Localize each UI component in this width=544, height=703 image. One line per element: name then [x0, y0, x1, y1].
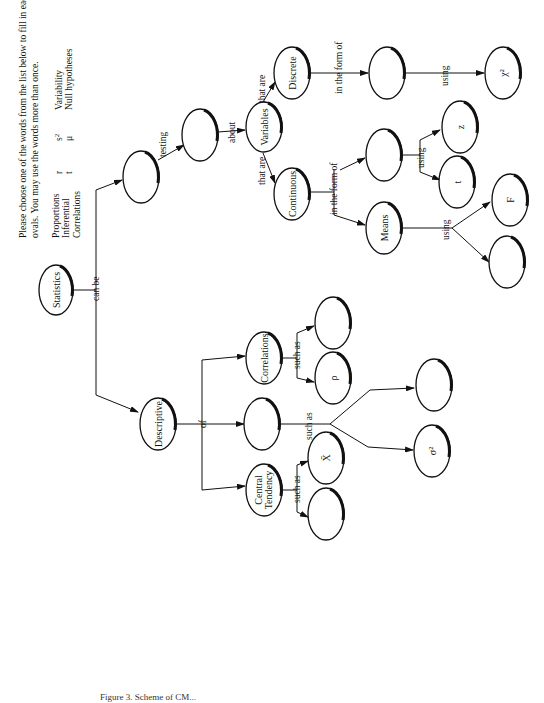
svg-text:Continuous: Continuous	[287, 171, 298, 217]
node-blank-continuous-form[interactable]	[366, 129, 402, 181]
svg-text:X̄: X̄	[321, 454, 332, 462]
node-blank-inferential[interactable]	[123, 151, 159, 203]
node-chi-square: χ²	[485, 47, 521, 99]
svg-text:ρ: ρ	[328, 376, 339, 381]
svg-text:Correlations: Correlations	[259, 333, 270, 383]
node-blank-testing[interactable]	[182, 109, 218, 161]
node-means: Means	[366, 202, 402, 254]
link-that-are-continuous: that are	[257, 157, 267, 185]
node-blank-central-example[interactable]	[308, 488, 344, 540]
node-rho: ρ	[315, 352, 351, 404]
link-of: of	[198, 419, 208, 428]
svg-text:z: z	[455, 124, 466, 129]
link-using-continuous: using	[416, 147, 426, 168]
node-continuous: Continuous	[274, 168, 310, 220]
svg-text:Statistics: Statistics	[51, 272, 62, 308]
word-proportions: Proportions	[51, 193, 61, 238]
word-mu: μ	[64, 136, 74, 141]
word-s2: s2	[53, 133, 64, 141]
node-blank-variability-example[interactable]	[416, 359, 452, 411]
link-in-the-form-of-discrete: in the form of	[334, 41, 344, 94]
node-t: t	[439, 156, 475, 208]
instructions-line-2: ovals. You may use the words more than o…	[30, 61, 40, 238]
svg-text:χ²: χ²	[498, 69, 509, 77]
svg-text:Variables: Variables	[259, 108, 270, 145]
figure-caption: Figure 3. Scheme of CM...	[100, 692, 196, 702]
node-descriptive: Descriptive	[140, 398, 176, 450]
node-blank-correlations[interactable]	[315, 297, 351, 349]
link-about: about	[227, 122, 237, 143]
node-blank-discrete-form[interactable]	[369, 47, 405, 99]
node-blank-means-using[interactable]	[489, 236, 525, 288]
svg-text:Discrete: Discrete	[287, 56, 298, 90]
link-in-the-form-of-continuous: in the form of	[329, 162, 339, 215]
svg-text:σ²: σ²	[427, 447, 438, 455]
node-statistics: Statistics	[39, 265, 73, 315]
concept-map: Please choose one of the words from the …	[0, 0, 544, 703]
word-variability: Variability	[54, 70, 64, 110]
node-correlations: Correlations	[246, 332, 282, 384]
instructions-line-1: Please choose one of the words from the …	[18, 0, 28, 238]
link-using-means: using	[441, 219, 451, 240]
node-z: z	[442, 101, 478, 153]
instructions: Please choose one of the words from the …	[18, 0, 82, 238]
link-such-as-central: such as	[292, 475, 302, 503]
link-that-are-discrete: that are	[257, 75, 267, 103]
word-inferential: Inferential	[61, 198, 71, 238]
svg-text:t: t	[452, 180, 463, 183]
node-f: F	[492, 174, 528, 226]
link-can-be: can be	[91, 276, 101, 301]
svg-text:Tendency: Tendency	[263, 471, 274, 510]
svg-text:F: F	[505, 197, 516, 203]
node-central-tendency: Central Tendency	[246, 464, 282, 516]
link-using-discrete: using	[440, 65, 450, 86]
svg-text:Means: Means	[379, 215, 390, 242]
node-x-bar: X̄	[308, 432, 344, 484]
link-such-as-variability: such as	[304, 412, 314, 440]
svg-text:Descriptive: Descriptive	[153, 400, 164, 447]
word-correlations: Correlations	[72, 191, 82, 238]
word-t: t	[64, 171, 74, 174]
node-blank-variability[interactable]	[244, 398, 280, 450]
nodes: Statistics Descriptive Variables Discret…	[39, 47, 528, 540]
node-discrete: Discrete	[274, 47, 310, 99]
node-variables: Variables	[246, 102, 282, 152]
word-r: r	[54, 170, 64, 174]
link-testing: testing	[158, 131, 168, 157]
word-null-hypotheses: Null hypotheses	[64, 48, 74, 110]
link-such-as-correlations: such as	[292, 341, 302, 369]
node-sigma-square: σ²	[414, 425, 450, 477]
